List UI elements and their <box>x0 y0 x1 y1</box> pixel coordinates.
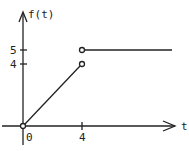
open-point-4-5 <box>80 48 85 53</box>
xlabel: t <box>181 120 188 133</box>
ylabel: f(t) <box>28 8 55 21</box>
piecewise-function-graph: f(t) t 0 4 5 4 <box>0 0 189 151</box>
ytick-4-label: 4 <box>10 58 17 71</box>
xtick-4-label: 4 <box>79 131 86 144</box>
open-point-origin <box>21 124 26 129</box>
ytick-5-label: 5 <box>10 44 17 57</box>
origin-label: 0 <box>26 131 33 144</box>
open-point-4-4 <box>80 62 85 67</box>
segment-ramp <box>25 66 80 124</box>
